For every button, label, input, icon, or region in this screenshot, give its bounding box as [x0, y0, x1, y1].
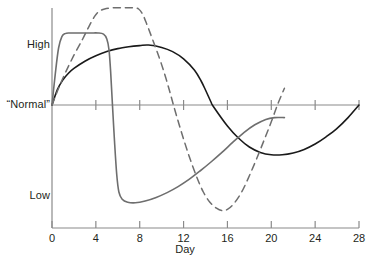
y-axis-label-normal: “Normal” [6, 99, 50, 110]
x-axis-title: Day [0, 243, 370, 255]
chart-container: High “Normal” Low 0481216202428 Day [0, 0, 370, 263]
chart-plot-area [0, 0, 370, 263]
gray-dashed-curve [52, 8, 284, 211]
gray-solid-curve [52, 33, 284, 203]
black-solid-curve [52, 45, 359, 155]
x-axis-tick-marks [52, 221, 359, 228]
y-axis-label-low: Low [30, 190, 50, 201]
y-axis-label-high: High [27, 39, 50, 50]
data-series-layer [52, 8, 359, 211]
